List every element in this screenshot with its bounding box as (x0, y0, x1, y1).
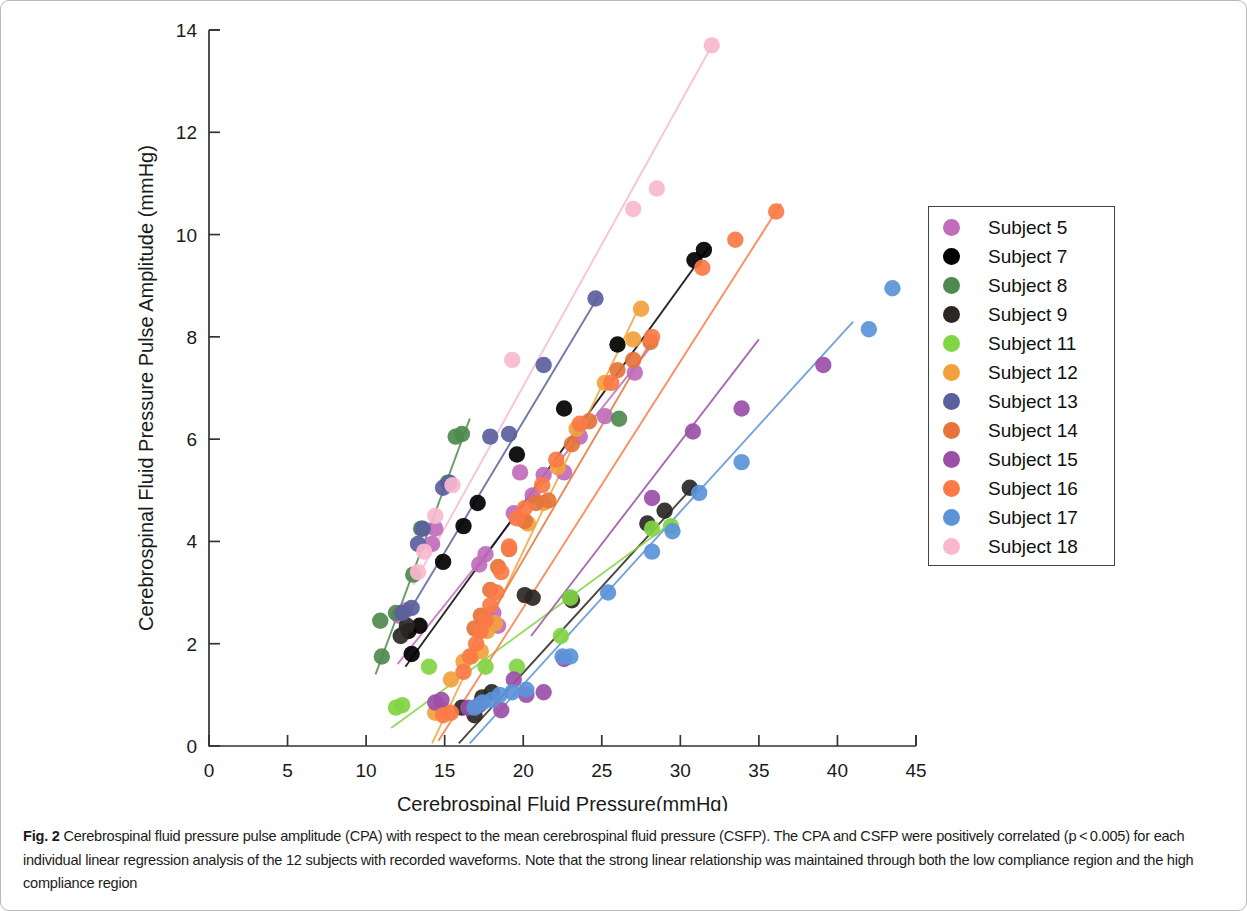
data-point (664, 523, 680, 539)
legend-item-label: Subject 7 (988, 246, 1067, 268)
data-point (455, 664, 471, 680)
figure-caption: Fig. 2 Cerebrospinal fluid pressure puls… (1, 819, 1247, 911)
data-point (644, 490, 660, 506)
legend-item[interactable]: Subject 8 (929, 271, 1114, 300)
x-tick-label: 35 (748, 760, 769, 781)
legend-item-label: Subject 17 (988, 507, 1078, 529)
data-point (625, 331, 641, 347)
legend-item[interactable]: Subject 11 (929, 329, 1114, 358)
legend-item[interactable]: Subject 14 (929, 416, 1114, 445)
y-axis-title: Cerebrospinal Fluid Pressure Pulse Ampli… (135, 145, 157, 631)
legend-item-label: Subject 11 (988, 333, 1076, 355)
legend-item[interactable]: Subject 9 (929, 300, 1114, 329)
legend-marker-icon (943, 393, 960, 410)
legend-item-label: Subject 13 (988, 391, 1078, 413)
data-point (504, 352, 520, 368)
regression-line (470, 322, 853, 744)
legend-item-label: Subject 18 (988, 536, 1078, 558)
data-point (685, 423, 701, 439)
legend-item[interactable]: Subject 13 (929, 387, 1114, 416)
legend-marker-icon (943, 219, 960, 236)
regression-line (396, 296, 599, 634)
legend-item[interactable]: Subject 16 (929, 474, 1114, 503)
y-tick-label: 6 (186, 429, 197, 450)
data-point (611, 410, 627, 426)
legend-item[interactable]: Subject 12 (929, 358, 1114, 387)
x-tick-label: 25 (591, 760, 612, 781)
legend-marker-icon (943, 306, 960, 323)
data-point (644, 329, 660, 345)
legend-item[interactable]: Subject 17 (929, 503, 1114, 532)
data-point (435, 554, 451, 570)
data-point (625, 201, 641, 217)
legend-marker-icon (943, 277, 960, 294)
legend-item-label: Subject 9 (988, 304, 1067, 326)
data-point (556, 400, 572, 416)
x-tick-label: 15 (434, 760, 455, 781)
y-tick-label: 2 (186, 634, 197, 655)
x-tick-label: 40 (827, 760, 848, 781)
data-point (553, 628, 569, 644)
legend-item-label: Subject 14 (988, 420, 1078, 442)
data-point (512, 464, 528, 480)
y-tick-label: 12 (176, 122, 197, 143)
data-point (644, 520, 660, 536)
data-point (524, 589, 540, 605)
legend-item-label: Subject 12 (988, 362, 1078, 384)
legend-item[interactable]: Subject 18 (929, 532, 1114, 561)
data-point (501, 426, 517, 442)
legend-item[interactable]: Subject 7 (929, 242, 1114, 271)
data-point (394, 697, 410, 713)
legend-item[interactable]: Subject 15 (929, 445, 1114, 474)
data-point (403, 646, 419, 662)
data-point (374, 648, 390, 664)
data-point (414, 520, 430, 536)
x-tick-label: 10 (356, 760, 377, 781)
data-point (427, 508, 443, 524)
data-point (469, 495, 485, 511)
data-point (518, 682, 534, 698)
data-point (694, 260, 710, 276)
y-tick-label: 0 (186, 736, 197, 757)
data-point (421, 659, 437, 675)
data-point (649, 180, 665, 196)
data-point (600, 584, 616, 600)
x-tick-label: 30 (670, 760, 691, 781)
data-point (477, 659, 493, 675)
data-point (477, 546, 493, 562)
data-point (443, 705, 459, 721)
data-point (564, 436, 580, 452)
data-point (572, 416, 588, 432)
data-point (416, 543, 432, 559)
data-point (603, 375, 619, 391)
data-point (727, 231, 743, 247)
legend-marker-icon (943, 364, 960, 381)
data-point (454, 426, 470, 442)
data-point (410, 564, 426, 580)
data-point (535, 684, 551, 700)
data-point (597, 408, 613, 424)
x-tick-label: 20 (513, 760, 534, 781)
legend: Subject 5Subject 7Subject 8Subject 9Subj… (928, 206, 1115, 566)
legend-item-label: Subject 16 (988, 478, 1078, 500)
x-tick-label: 45 (905, 760, 926, 781)
data-point (768, 203, 784, 219)
data-point (633, 301, 649, 317)
legend-marker-icon (943, 451, 960, 468)
data-point (815, 357, 831, 373)
x-tick-label: 5 (282, 760, 293, 781)
figure-container: 05101520253035404502468101214Cerebrospin… (0, 0, 1247, 911)
figure-label: Fig. 2 (23, 828, 60, 844)
data-point (691, 485, 707, 501)
legend-marker-icon (943, 335, 960, 352)
data-point (517, 500, 533, 516)
y-tick-label: 4 (186, 531, 197, 552)
data-point (488, 584, 504, 600)
data-point (455, 518, 471, 534)
data-point (884, 280, 900, 296)
data-point (609, 336, 625, 352)
legend-item[interactable]: Subject 5 (929, 213, 1114, 242)
legend-marker-icon (943, 538, 960, 555)
legend-item-label: Subject 15 (988, 449, 1078, 471)
data-point (372, 613, 388, 629)
